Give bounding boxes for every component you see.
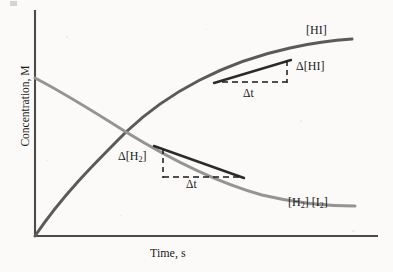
hi-tangent-segment (214, 60, 291, 83)
delta-h2-label: Δ[H2] (118, 150, 146, 164)
plot-canvas (0, 0, 393, 272)
kinetics-plot-figure: Concentration, M Time, s [HI] Δ[HI] Δt Δ… (0, 0, 393, 272)
h2-i2-curve-label: [H2] [I2] (288, 196, 328, 210)
h2-tangent-segment (154, 146, 244, 178)
delta-t-upper-label: Δt (243, 88, 254, 100)
delta-hi-label: Δ[HI] (296, 60, 324, 72)
delta-t-lower-label: Δt (186, 179, 197, 191)
hi-curve-label: [HI] (306, 24, 327, 36)
y-axis-label: Concentration, M (19, 41, 31, 171)
x-axis-label: Time, s (150, 246, 186, 261)
